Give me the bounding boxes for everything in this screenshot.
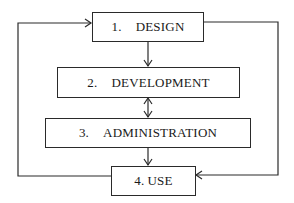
node-use: 4.USE [111,166,196,196]
node-label: DESIGN [136,19,185,35]
node-number: 2. [87,75,97,91]
node-number: 1. [111,19,121,35]
node-label: DEVELOPMENT [111,75,209,91]
node-design: 1.DESIGN [92,12,204,42]
node-development: 2.DEVELOPMENT [57,67,240,98]
node-number: 3. [79,125,89,141]
node-label: ADMINISTRATION [103,125,217,141]
loop-design-to-use [196,22,278,175]
node-administration: 3.ADMINISTRATION [45,118,251,148]
node-number: 4. [134,173,144,189]
node-label: USE [147,173,172,189]
loop-use-to-design [18,23,111,176]
